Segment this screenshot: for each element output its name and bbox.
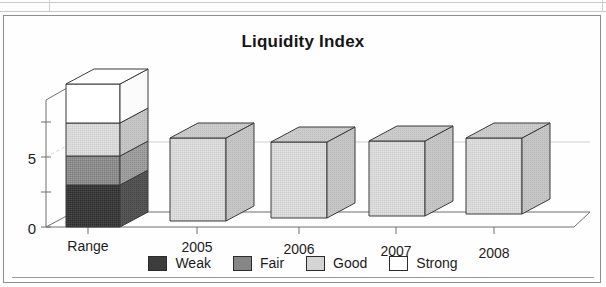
legend-label-fair: Fair: [260, 255, 284, 271]
legend-item-fair: Fair: [233, 255, 284, 271]
ghost-rule-bottom: [0, 11, 606, 12]
y-tick-label-5: 5: [14, 150, 36, 167]
figure-page: Liquidity Index: [0, 0, 606, 287]
legend-item-good: Good: [306, 255, 367, 271]
x-tick-label-range: Range: [56, 238, 120, 254]
legend-label-weak: Weak: [175, 255, 211, 271]
legend-swatch-strong-icon: [389, 256, 408, 271]
legend-label-good: Good: [333, 255, 367, 271]
legend-swatch-good-icon: [306, 256, 325, 271]
legend-label-strong: Strong: [416, 255, 457, 271]
x-tick-marks: [88, 227, 494, 234]
x-tick-label-2005: 2005: [165, 239, 229, 255]
cropped-table-row-above: [0, 0, 606, 14]
chart-legend: Weak Fair Good Strong: [4, 255, 602, 271]
y-tick-label-0: 0: [14, 220, 36, 237]
legend-item-strong: Strong: [389, 255, 457, 271]
bar-2008: [466, 123, 550, 214]
bar-2005: [170, 123, 254, 221]
bar-2007: [369, 126, 453, 216]
ghost-cell-divider-2: [602, 0, 603, 11]
ghost-rule-top: [0, 2, 606, 3]
legend-swatch-weak-icon: [148, 256, 167, 271]
chart-frame: Liquidity Index: [3, 15, 601, 283]
legend-item-weak: Weak: [148, 255, 211, 271]
legend-bottom-rule: [12, 277, 594, 278]
bar-range: [66, 69, 148, 227]
bar-range-segment-strong: [66, 69, 148, 123]
legend-swatch-fair-icon: [233, 256, 252, 271]
ghost-cell-divider-1: [49, 0, 50, 11]
bar-2006: [271, 127, 355, 218]
